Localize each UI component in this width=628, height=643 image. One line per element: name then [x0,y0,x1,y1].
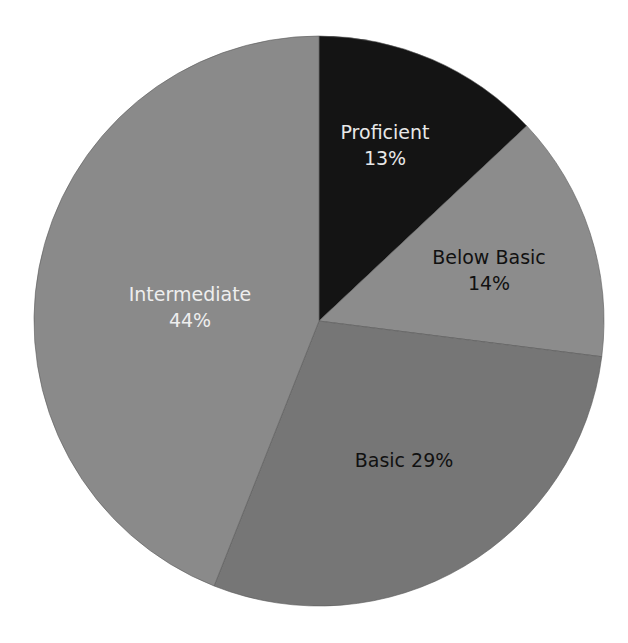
slice-name: Intermediate [129,281,252,307]
slice-percent: 14% [432,270,546,296]
slice-percent: 44% [129,307,252,333]
slice-name: Proficient [340,119,429,145]
slice-label-proficient: Proficient 13% [340,119,429,171]
slice-label-below-basic: Below Basic 14% [432,244,546,296]
pie-slices [34,36,604,606]
slice-label-intermediate: Intermediate 44% [129,281,252,333]
slice-label-basic: Basic 29% [355,447,454,473]
slice-name: Below Basic [432,244,546,270]
slice-name-percent: Basic 29% [355,447,454,473]
slice-percent: 13% [340,145,429,171]
pie-chart [0,0,628,643]
